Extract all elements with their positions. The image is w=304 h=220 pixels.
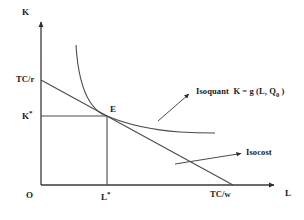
x-axis-label: L: [285, 189, 291, 198]
isoquant-annotation-arrow: [158, 94, 189, 121]
isoquant-equation-close: ): [279, 86, 284, 96]
isoquant-curve: [76, 45, 215, 133]
isoquant-equation-function: g (L, Q: [250, 86, 276, 96]
isoquant-equation-lhs: K: [233, 86, 240, 96]
l-star-label: L*: [101, 191, 111, 202]
isoquant-isocost-figure: K L O TC/r TC/w K* L* E Isoquant K = g (…: [0, 0, 304, 220]
isoquant-equation-equals: =: [242, 86, 247, 96]
y-axis-label: K: [22, 8, 29, 17]
k-star-label: K*: [22, 110, 33, 121]
isoquant-prefix: Isoquant: [196, 86, 229, 96]
figure-canvas: [0, 0, 304, 220]
isocost-annotation-label: Isocost: [246, 148, 272, 157]
isoquant-annotation-label: Isoquant K = g (L, Q0 ): [196, 87, 284, 98]
equilibrium-point-label: E: [110, 105, 116, 114]
tc-over-w-label: TC/w: [210, 190, 231, 199]
l-star-mark: *: [107, 190, 111, 198]
origin-label: O: [26, 191, 33, 200]
k-star-mark: *: [29, 109, 33, 117]
tc-over-r-label: TC/r: [16, 75, 34, 84]
